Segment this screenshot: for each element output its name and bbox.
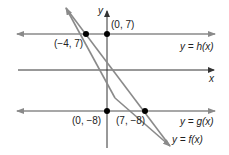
function-graph: x y y = h(x) y = g(x) y = f(x) (0, 7) (−… xyxy=(0,0,229,155)
label-0-m8: (0, −8) xyxy=(72,115,101,126)
point-7-m8 xyxy=(142,108,148,114)
h-line-label: y = h(x) xyxy=(179,41,214,52)
label-0-7: (0, 7) xyxy=(111,19,134,30)
x-axis-label: x xyxy=(208,73,215,84)
f-line-label: y = f(x) xyxy=(171,134,203,145)
point-0-7 xyxy=(104,31,110,37)
label-m4-7: (−4, 7) xyxy=(54,38,83,49)
g-line-label: y = g(x) xyxy=(179,116,214,127)
label-7-m8: (7, −8) xyxy=(116,115,145,126)
f-line-up xyxy=(66,8,115,98)
y-axis-label: y xyxy=(97,5,104,16)
point-0-m8 xyxy=(104,108,110,114)
point-m4-7 xyxy=(83,31,89,37)
